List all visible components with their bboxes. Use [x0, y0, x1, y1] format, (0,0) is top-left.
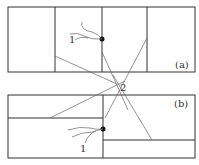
rays — [50, 38, 152, 140]
flow-b-tick — [85, 131, 96, 143]
focus-point-label: 2 — [120, 82, 126, 93]
flow-a-tick — [75, 37, 88, 40]
diagram-canvas: 1 1 2 (a) (b) — [0, 0, 199, 165]
ray-b-left — [50, 81, 125, 118]
panel-b-frame — [8, 95, 195, 158]
flow-b-upper — [68, 127, 103, 130]
point-1-b-label: 1 — [80, 143, 86, 154]
ray-b-right — [113, 75, 152, 140]
point-1-a-label: 1 — [69, 34, 75, 45]
panel-b-label: (b) — [174, 98, 188, 109]
flow-b-lower — [72, 129, 103, 137]
panel-a-label: (a) — [175, 59, 189, 70]
ray-a-left — [55, 56, 117, 84]
panel-b — [8, 95, 195, 158]
